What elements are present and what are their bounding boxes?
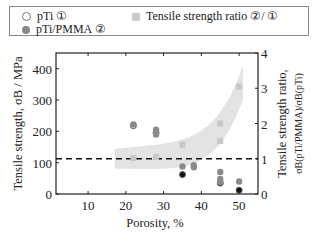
ratio-point — [217, 121, 223, 127]
x-tick-label: 50 — [233, 198, 246, 213]
pti-pmma-point — [179, 163, 185, 169]
ratio-point — [236, 83, 242, 89]
x-tick-label: 20 — [119, 198, 132, 213]
y-tick-label: 400 — [33, 62, 53, 77]
y-tick-label: 200 — [33, 124, 53, 139]
pti-pmma-point — [236, 178, 242, 184]
x-tick-label: 40 — [195, 198, 208, 213]
y2-tick-label: 2 — [261, 117, 268, 132]
y2-axis-subtitle: σB(pTi/PMMA)/σB(pTi) — [293, 73, 305, 174]
ratio-point — [130, 155, 136, 161]
pti-pmma-point — [153, 131, 159, 137]
x-tick-label: 10 — [82, 198, 95, 213]
x-axis-title: Porosity, % — [126, 216, 184, 230]
x-tick-label: 30 — [157, 198, 170, 213]
pti-point — [236, 187, 242, 193]
pti-pmma-point — [130, 121, 136, 127]
ratio-point — [217, 138, 223, 144]
y-tick-label: 100 — [33, 156, 53, 171]
y-tick-label: 300 — [33, 93, 53, 108]
y-axis-title: Tensile strength, σB / MPa — [11, 56, 25, 190]
ratio-point — [179, 142, 185, 148]
y2-tick-label: 3 — [261, 81, 268, 96]
y2-tick-label: 1 — [261, 152, 268, 167]
y2-tick-label: 4 — [261, 46, 268, 61]
pti-pmma-point — [217, 179, 223, 185]
y2-axis-title: Tensile strength ratio, — [275, 69, 289, 177]
scatter-chart: 1020304050010020030040001234Porosity, %T… — [0, 0, 312, 241]
trend-band — [115, 66, 243, 169]
ratio-point — [153, 154, 159, 160]
pti-pmma-point — [191, 164, 197, 170]
pti-pmma-point — [217, 169, 223, 175]
pti-point — [179, 172, 185, 178]
y2-tick-label: 0 — [261, 187, 268, 202]
y-tick-label: 0 — [46, 187, 53, 202]
